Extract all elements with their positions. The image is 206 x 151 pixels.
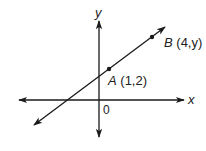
y-axis-label: y xyxy=(95,6,102,19)
point-b-name: B xyxy=(164,35,173,50)
point-a xyxy=(107,67,111,71)
origin-label: 0 xyxy=(103,104,110,116)
point-b xyxy=(150,35,154,39)
point-b-coords: (4,y) xyxy=(176,35,202,50)
coordinate-plane xyxy=(0,0,206,151)
point-a-name: A xyxy=(108,73,117,88)
point-a-coords: (1,2) xyxy=(120,73,147,88)
coordinate-plane-figure: y x 0 A (1,2) B (4,y) xyxy=(0,0,206,151)
point-b-label: B (4,y) xyxy=(164,36,202,49)
point-a-label: A (1,2) xyxy=(108,74,147,87)
x-axis-label: x xyxy=(188,93,195,106)
